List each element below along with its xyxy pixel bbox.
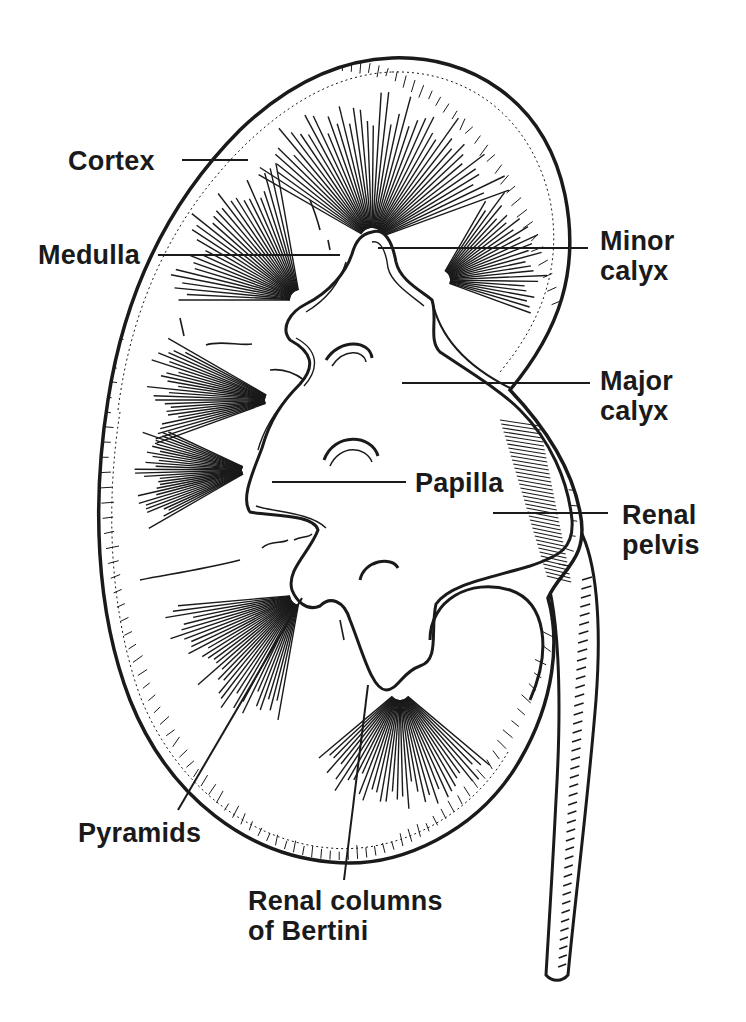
label-renal-columns: Renal columns of Bertini — [248, 886, 443, 946]
label-medulla: Medulla — [38, 240, 140, 270]
label-major-calyx: Major calyx — [600, 366, 673, 426]
label-papilla: Papilla — [415, 468, 503, 498]
label-cortex: Cortex — [68, 146, 155, 176]
label-pyramids: Pyramids — [78, 818, 201, 848]
label-minor-calyx: Minor calyx — [600, 226, 675, 286]
kidney-diagram: Cortex Medulla Minor calyx Major calyx P… — [0, 0, 746, 1022]
label-renal-pelvis: Renal pelvis — [622, 500, 700, 560]
